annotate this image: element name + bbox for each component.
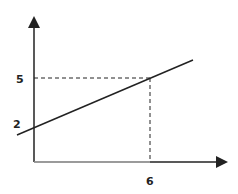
- chart: 5 2 6: [0, 0, 238, 194]
- x-label-6: 6: [146, 175, 154, 188]
- y-label-5: 5: [16, 73, 24, 86]
- y-label-2: 2: [13, 118, 21, 131]
- data-line: [17, 60, 193, 135]
